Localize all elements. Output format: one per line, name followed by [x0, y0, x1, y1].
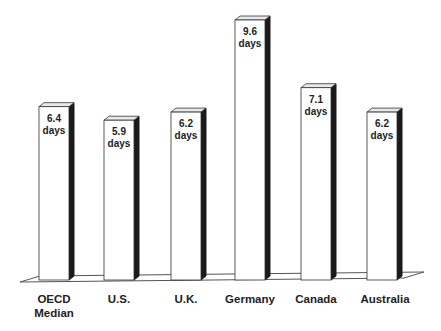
value-text: 6.2: [171, 118, 201, 130]
unit-text: days: [104, 138, 134, 150]
value-text: 6.2: [367, 118, 397, 130]
chart-plot-area: [0, 0, 441, 331]
unit-text: days: [367, 130, 397, 142]
unit-text: days: [301, 106, 331, 118]
category-label: U.S.: [84, 292, 154, 306]
chart-floor: [20, 272, 424, 282]
bar-chart: 6.4daysOECDMedian5.9daysU.S.6.2daysU.K.9…: [0, 0, 441, 331]
data-label: 7.1days: [301, 94, 331, 118]
category-label: U.K.: [151, 292, 221, 306]
value-text: 7.1: [301, 94, 331, 106]
value-text: 9.6: [235, 26, 265, 38]
value-text: 5.9: [104, 126, 134, 138]
bar-germany: [235, 20, 265, 280]
data-label: 6.2days: [367, 118, 397, 142]
category-label: Australia: [350, 292, 420, 306]
unit-text: days: [39, 125, 69, 137]
category-label: Germany: [215, 292, 285, 306]
category-label: Canada: [281, 292, 351, 306]
value-text: 6.4: [39, 113, 69, 125]
data-label: 6.4days: [39, 113, 69, 137]
data-label: 6.2days: [171, 118, 201, 142]
data-label: 9.6days: [235, 26, 265, 50]
bars-group: [39, 16, 402, 280]
unit-text: days: [171, 130, 201, 142]
data-label: 5.9days: [104, 126, 134, 150]
category-label: OECDMedian: [19, 292, 89, 320]
unit-text: days: [235, 38, 265, 50]
